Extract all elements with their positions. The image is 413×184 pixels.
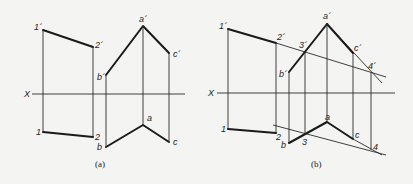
prism-front-ac-thick-b: [327, 24, 353, 53]
label-b-top-b: b: [281, 140, 286, 150]
label-a-front-a: a´: [139, 14, 147, 24]
x-axis-label-b: X: [207, 88, 215, 98]
label-4-front-b: 4´: [368, 61, 376, 71]
label-1-front-a: 1´: [34, 22, 42, 32]
label-a-top-b: a: [325, 112, 330, 122]
label-2-front-a: 2´: [94, 40, 103, 50]
line-12-top-a: [43, 132, 93, 137]
panel-a: X 1´ 2´ a´ b´ c´ 1 2 a b c (a): [23, 14, 185, 169]
label-c-top-b: c: [355, 130, 360, 140]
label-2-front-b: 2´: [276, 32, 285, 42]
prism-front-ba-b: [289, 24, 327, 72]
projection-diagram: X 1´ 2´ a´ b´ c´ 1 2 a b c (a) X: [0, 0, 413, 184]
line-12-top-b: [228, 129, 276, 133]
label-a-top-a: a: [147, 113, 152, 123]
caption-a: (a): [95, 159, 105, 169]
line-12-front-b: [228, 29, 276, 43]
label-a-front-b: a´: [323, 11, 331, 21]
label-1-top-b: 1: [221, 124, 226, 134]
line-12-front-a: [43, 30, 93, 47]
prism-top-b: [289, 122, 353, 143]
line-12-front-extension-b: [276, 43, 386, 77]
label-3-top-b: 3: [302, 137, 307, 147]
line-12-top-extension-b: [273, 125, 386, 155]
label-b-front-a: b´: [97, 72, 105, 82]
label-3-front-b: 3´: [299, 40, 307, 50]
label-b-top-a: b: [97, 142, 102, 152]
label-c-front-b: c´: [354, 43, 362, 53]
label-1-front-b: 1´: [219, 21, 227, 31]
label-2-top-a: 2: [94, 132, 100, 142]
label-4-top-b: 4: [373, 142, 378, 152]
label-c-front-a: c´: [173, 49, 181, 59]
label-1-top-a: 1: [36, 127, 41, 137]
x-axis-label-a: X: [23, 89, 31, 99]
caption-b: (b): [311, 159, 322, 169]
panel-b: X 1´ 2´ 3´ 4´ a´ b´ c´ 1 2: [207, 11, 395, 169]
label-b-front-b: b´: [279, 69, 287, 79]
prism-front-a: [106, 26, 169, 75]
prism-top-a: [106, 125, 169, 147]
label-c-top-a: c: [173, 137, 178, 147]
